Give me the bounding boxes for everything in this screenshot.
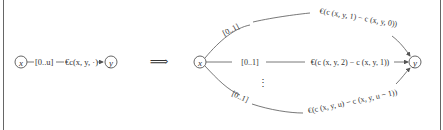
transform-arrow: ⟹ <box>150 54 169 69</box>
edge-3-cost: €(c (x, y, u) − c (x, y, u − 1)) <box>307 88 398 116</box>
edge-ellipsis: ⋮ <box>258 77 268 88</box>
right-node-x-label: x <box>197 58 202 68</box>
left-node-x-label: x <box>18 58 23 68</box>
left-edge-interval: [0..u] <box>35 57 54 67</box>
right-node-y-label: y <box>412 58 417 68</box>
left-node-y-label: y <box>108 58 113 68</box>
right-graph: x y [0..1] €(c (x, y, 1) − c (x, y, 0)) … <box>194 6 421 115</box>
left-graph: x [0..u] €c(x, y, ·) y <box>15 56 117 68</box>
edge-1-interval: [0..1] <box>221 22 241 38</box>
edge-1-cost: €(c (x, y, 1) − c (x, y, 0)) <box>319 6 398 29</box>
edge-2-interval: [0..1] <box>241 58 259 67</box>
left-edge-cost: €c(x, y, ·) <box>65 57 98 67</box>
edge-3-interval: [0..1] <box>230 89 250 105</box>
edge-2-cost: €(c (x, y, 2) − c (x, y, 1)) <box>311 58 390 67</box>
diagram-canvas: x [0..u] €c(x, y, ·) y ⟹ x y [0..1] €(c … <box>0 0 443 130</box>
